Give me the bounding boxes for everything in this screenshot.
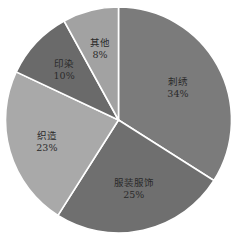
- pie-chart: 刺绣34%服装服饰25%织造23%印染10%其他8%: [0, 0, 240, 240]
- slice-percent: 25%: [123, 189, 144, 200]
- slice-label: 其他: [90, 37, 110, 48]
- slice-label: 服装服饰: [114, 177, 154, 188]
- slice-percent: 8%: [92, 49, 107, 60]
- slice-label: 织造: [37, 130, 57, 141]
- slice-percent: 23%: [36, 142, 57, 153]
- slice-percent: 10%: [54, 70, 75, 81]
- pie-slices: [6, 7, 232, 233]
- slice-percent: 34%: [167, 88, 188, 99]
- slice-label: 刺绣: [168, 76, 188, 87]
- slice-label: 印染: [54, 58, 74, 69]
